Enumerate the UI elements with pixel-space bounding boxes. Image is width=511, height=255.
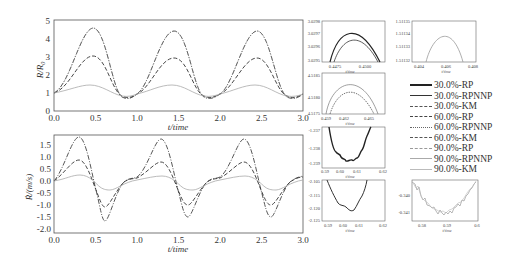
svg-text:2.0: 2.0 [214,235,226,245]
svg-text:1.0: 1.0 [40,152,52,162]
inset-chart-3: 4.51854.51804.5175 0.4590.4620.465 t/tim… [308,73,385,126]
svg-text:0.4475: 0.4475 [329,64,342,69]
inset-chart-1: 3.02983.02973.02963.0295 0.44750.4500 t/… [308,19,385,74]
x-axis-label: t/time [168,122,189,132]
svg-text:0.4500: 0.4500 [359,64,372,69]
svg-text:0.404: 0.404 [414,64,425,69]
svg-text:0.408: 0.408 [468,64,479,69]
ytick: 1 [46,88,51,98]
svg-text:-0.340: -0.340 [398,193,410,198]
svg-text:t/time: t/time [442,228,451,233]
y-axis-label: Ṙ/(m/s) [24,174,34,202]
svg-text:0.0: 0.0 [48,235,60,245]
svg-text:0.5: 0.5 [40,164,52,174]
svg-text:4.5185: 4.5185 [308,73,321,78]
legend-swatch-icon [410,84,432,86]
svg-text:1.0: 1.0 [131,235,143,245]
svg-text:-0.341: -0.341 [398,210,410,215]
svg-text:0.0: 0.0 [48,113,60,123]
svg-text:0.62: 0.62 [379,169,387,174]
legend-swatch-icon [410,158,432,159]
svg-text:3.0: 3.0 [297,235,309,245]
legend-swatch-icon [410,116,432,117]
svg-text:1.51133: 1.51133 [396,44,411,49]
svg-text:-1.5: -1.5 [37,212,52,222]
svg-text:t/time: t/time [345,121,354,126]
svg-text:-2.120: -2.120 [308,206,320,211]
svg-text:1.51134: 1.51134 [396,31,411,36]
svg-text:t/time: t/time [345,228,354,233]
legend-item: 60.0%-RPNNP [410,122,510,133]
svg-text:-1.238: -1.238 [308,146,320,151]
legend-item: 90.0%-RPNNP [410,154,510,165]
svg-text:3.0297: 3.0297 [308,31,321,36]
svg-text:2.5: 2.5 [256,235,268,245]
chart-radius: 0 1 2 3 4 5 0.0 0.5 1.0 1.5 2.0 2.5 3.0 … [35,16,309,132]
x-axis-label: t/time [168,244,189,254]
y-axis-label: R/R0 [35,62,46,80]
svg-text:3.0298: 3.0298 [308,19,321,24]
ytick: 5 [46,16,51,26]
svg-text:0.59: 0.59 [321,169,330,174]
svg-text:0.6: 0.6 [474,223,480,228]
inset-chart-2: 1.511351.511341.511331.51132 0.4040.4060… [396,19,479,74]
legend-item: 60.0%-KM [410,133,510,144]
svg-text:-2.115: -2.115 [309,193,321,198]
legend-item: 60.0%-RP [410,112,510,123]
legend-swatch-icon [410,127,432,128]
legend: 30.0%-RP 30.0%-RPNNP 30.0%-KM 60.0%-RP 6… [410,80,510,175]
svg-text:0.5: 0.5 [90,113,102,123]
ytick: 4 [46,34,51,44]
svg-text:-2.0: -2.0 [37,224,52,234]
svg-text:0.62: 0.62 [379,223,387,228]
legend-swatch-icon [410,148,432,149]
svg-text:-1.0: -1.0 [37,200,52,210]
legend-item: 90.0%-RP [410,143,510,154]
ytick: 2 [46,70,51,80]
svg-text:1.51132: 1.51132 [396,58,410,63]
legend-item: 30.0%-RP [410,80,510,91]
ytick: 3 [46,52,51,62]
svg-text:0.459: 0.459 [321,116,332,121]
inset-chart-5: -2.105-2.115-2.120-2.125 0.590.600.610.6… [308,179,387,233]
svg-text:4.5175: 4.5175 [308,111,321,116]
svg-text:0.58: 0.58 [418,223,427,228]
svg-text:0.5: 0.5 [90,235,102,245]
svg-text:0.0: 0.0 [40,176,52,186]
svg-text:-2.125: -2.125 [308,218,320,223]
svg-text:2.5: 2.5 [256,113,268,123]
svg-text:3.0295: 3.0295 [308,58,321,63]
inset-chart-6: -0.340-0.341 0.580.590.6 t/time [398,180,480,233]
svg-text:1.0: 1.0 [131,113,143,123]
legend-item: 30.0%-RPNNP [410,91,510,102]
svg-text:-0.5: -0.5 [37,188,52,198]
svg-text:-2.105: -2.105 [308,179,320,184]
legend-swatch-icon [410,169,432,170]
svg-text:t/time: t/time [345,174,354,179]
legend-item: 90.0%-KM [410,164,510,175]
svg-text:4.5180: 4.5180 [308,95,321,100]
svg-text:1.5: 1.5 [40,140,52,150]
svg-text:0.61: 0.61 [355,223,363,228]
svg-text:-1.237: -1.237 [308,128,320,133]
svg-text:-1.239: -1.239 [308,161,320,166]
svg-text:0.465: 0.465 [364,116,375,121]
legend-swatch-icon [410,137,432,138]
svg-text:0.60: 0.60 [336,169,345,174]
chart-velocity: 1.5 1.0 0.5 0.0 -0.5 -1.0 -1.5 -2.0 0.0 … [24,135,309,254]
inset-chart-4: -1.237-1.238-1.239 0.590.600.610.62 t/ti… [308,127,387,179]
svg-text:3.0296: 3.0296 [308,44,321,49]
svg-text:2.0: 2.0 [214,113,226,123]
svg-text:0.59: 0.59 [324,223,333,228]
svg-text:1.51135: 1.51135 [396,19,411,24]
legend-swatch-icon [410,95,432,96]
legend-item: 30.0%-KM [410,101,510,112]
svg-text:t/time: t/time [441,69,450,74]
legend-swatch-icon [410,106,432,107]
